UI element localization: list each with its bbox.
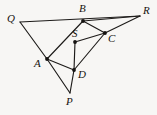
geometry-canvas: [0, 0, 157, 115]
segment-dc: [74, 33, 105, 70]
vertex-label-p: P: [66, 96, 73, 107]
geometry-figure: QBRSCADP: [0, 0, 157, 115]
segment-bc: [83, 21, 105, 33]
vertex-label-s: S: [72, 28, 78, 39]
vertex-label-a: A: [34, 58, 41, 69]
vertex-dot-c: [103, 31, 107, 35]
vertex-label-b: B: [79, 3, 86, 14]
vertex-dot-s: [73, 40, 77, 44]
vertex-dot-b: [81, 19, 85, 23]
vertex-dot-a: [45, 57, 49, 61]
vertex-dot-d: [72, 68, 76, 72]
vertex-label-c: C: [108, 33, 115, 44]
edge-layer: [20, 16, 140, 93]
segment-qr: [20, 16, 140, 22]
segment-dp: [70, 70, 74, 93]
vertex-label-q: Q: [7, 13, 15, 24]
vertex-label-r: R: [143, 5, 150, 16]
vertex-label-d: D: [78, 69, 86, 80]
segment-qa: [20, 22, 47, 59]
segment-sd: [74, 42, 75, 70]
